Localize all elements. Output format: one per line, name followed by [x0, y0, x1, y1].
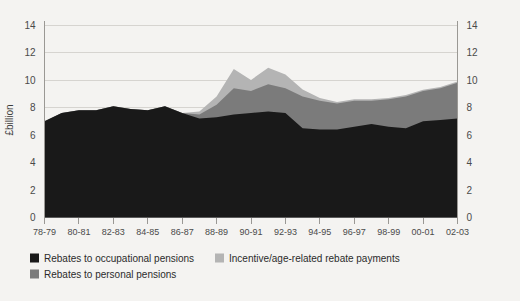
x-tick-label: 86-87 — [171, 227, 194, 237]
legend-label: Incentive/age-related rebate payments — [229, 253, 400, 264]
legend-label: Rebates to personal pensions — [44, 269, 176, 280]
y-axis-title-label: £billion — [4, 104, 15, 135]
x-tick-label: 90-91 — [239, 227, 262, 237]
y-tick-label-left: 10 — [24, 75, 36, 86]
x-tick-label: 84-85 — [136, 227, 159, 237]
y-tick-label-left: 2 — [30, 185, 36, 196]
legend-swatch — [30, 270, 39, 279]
y-tick-label-right: 0 — [467, 212, 473, 223]
y-tick-label-right: 4 — [467, 157, 473, 168]
y-axis-title: £billion — [4, 104, 15, 135]
y-tick-label-right: 10 — [467, 75, 479, 86]
x-tick-label: 94-95 — [308, 227, 331, 237]
y-tick-label-right: 2 — [467, 185, 473, 196]
x-tick-label: 96-97 — [343, 227, 366, 237]
y-tick-label-left: 4 — [30, 157, 36, 168]
legend-label: Rebates to occupational pensions — [44, 253, 194, 264]
legend-swatch — [215, 254, 224, 263]
y-tick-label-right: 6 — [467, 130, 473, 141]
x-tick-label: 80-81 — [67, 227, 90, 237]
x-tick-label: 88-89 — [205, 227, 228, 237]
legend-swatch — [30, 254, 39, 263]
x-tick-label: 02-03 — [446, 227, 469, 237]
x-tick-label: 82-83 — [102, 227, 125, 237]
y-tick-label-right: 12 — [467, 47, 479, 58]
y-tick-label-right: 8 — [467, 102, 473, 113]
y-tick-label-left: 0 — [30, 212, 36, 223]
chart-container: 02468101214 02468101214 78-7980-8182-838… — [0, 0, 520, 301]
x-tick-label: 78-79 — [33, 227, 56, 237]
y-tick-label-left: 6 — [30, 130, 36, 141]
y-tick-label-left: 8 — [30, 102, 36, 113]
y-tick-label-left: 14 — [24, 20, 36, 31]
y-tick-label-right: 14 — [467, 20, 479, 31]
x-tick-label: 98-99 — [377, 227, 400, 237]
y-tick-label-left: 12 — [24, 47, 36, 58]
x-tick-label: 92-93 — [274, 227, 297, 237]
x-tick-label: 00-01 — [412, 227, 435, 237]
area-chart: 02468101214 02468101214 78-7980-8182-838… — [0, 0, 520, 301]
